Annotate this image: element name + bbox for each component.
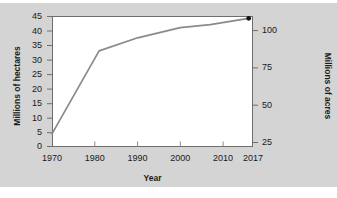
- x-tick-label: 2000: [163, 153, 197, 163]
- y2-tick-label: 25: [262, 137, 286, 147]
- figure-panel: 45 40 35 30 25 20 15 10 5 0 100 75 50 25…: [0, 3, 337, 187]
- x-axis-ticks: [95, 142, 223, 147]
- x-tick-label: 1980: [78, 153, 112, 163]
- x-tick-label: 1970: [35, 153, 69, 163]
- y2-tick-label: 50: [262, 100, 286, 110]
- y-tick-label: 20: [20, 84, 42, 94]
- y-tick-label: 10: [20, 113, 42, 123]
- y-tick-label: 25: [20, 69, 42, 79]
- screenshot-root: 45 40 35 30 25 20 15 10 5 0 100 75 50 25…: [0, 0, 337, 198]
- y-tick-label: 45: [20, 11, 42, 21]
- data-line: [52, 18, 249, 134]
- x-tick-label: 2017: [236, 153, 270, 163]
- y-tick-label: 40: [20, 26, 42, 36]
- y-tick-label: 35: [20, 40, 42, 50]
- endpoint-marker: [246, 16, 251, 21]
- left-axis-ticks: [47, 17, 52, 147]
- x-tick-label: 2010: [206, 153, 240, 163]
- y-axis-title: Millions of hectares: [12, 26, 22, 146]
- x-tick-label: 1990: [121, 153, 155, 163]
- line-chart: 45 40 35 30 25 20 15 10 5 0 100 75 50 25…: [0, 3, 337, 187]
- y2-tick-label: 75: [262, 62, 286, 72]
- x-axis-title: Year: [52, 173, 253, 183]
- right-axis-ticks: [253, 31, 258, 143]
- y-tick-label: 5: [20, 127, 42, 137]
- y-tick-label: 15: [20, 98, 42, 108]
- y-tick-label: 30: [20, 55, 42, 65]
- y2-tick-label: 100: [262, 25, 286, 35]
- y-tick-label: 0: [20, 141, 42, 151]
- y2-axis-title: Millions of acres: [323, 26, 333, 146]
